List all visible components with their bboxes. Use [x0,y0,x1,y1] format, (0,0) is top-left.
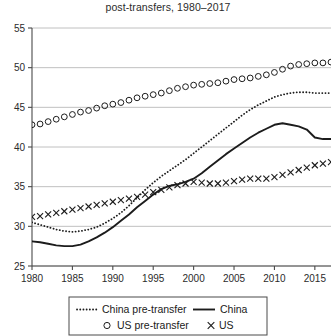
x-tick-labels: 19801985199019952000200520102015 [21,273,327,284]
x-tick-label: 1990 [102,273,125,284]
y-tick-label: 50 [14,62,26,73]
data-point-marker [239,76,245,82]
data-point-marker [158,90,164,96]
legend-label-china: China [220,303,248,315]
series-us-pre-transfer [29,59,334,127]
data-point-marker [118,100,124,106]
x-tick-marks [32,266,315,270]
data-point-marker [328,59,334,65]
data-point-marker [70,112,76,118]
data-point-marker [263,72,269,78]
data-point-marker [175,85,181,91]
series-us [29,159,334,220]
data-point-marker [142,93,148,99]
data-point-marker [78,109,84,115]
data-point-marker [304,61,310,67]
series-line [32,123,331,246]
data-point-marker [150,92,156,98]
data-point-marker [94,105,100,111]
data-point-marker [191,82,197,88]
data-point-marker [296,62,302,68]
series-line [32,92,331,232]
data-point-marker [247,75,253,81]
legend-label-china-pre-transfer: China pre-transfer [102,303,187,315]
x-tick-label: 2010 [263,273,286,284]
data-point-marker [199,81,205,87]
x-tick-label: 2000 [182,273,205,284]
chart-plot-area: 25303540455055 1980198519901995200020052… [0,0,336,336]
legend-label-us: US [219,319,234,331]
y-tick-label: 45 [14,102,26,113]
data-point-marker [231,77,237,83]
y-tick-label: 35 [14,181,26,192]
data-point-marker [166,88,172,94]
series-china [32,123,331,246]
y-tick-label: 55 [14,23,26,34]
data-point-marker [126,97,132,103]
x-tick-label: 2015 [304,273,327,284]
y-tick-label: 30 [14,221,26,232]
data-point-marker [223,78,229,84]
x-tick-label: 2005 [223,273,246,284]
data-point-marker [183,84,189,90]
x-tick-label: 1980 [21,273,44,284]
y-tick-labels: 25303540455055 [14,23,26,272]
chart-figure: post-transfers, 1980–2017 25303540455055… [0,0,336,336]
x-tick-label: 1985 [61,273,84,284]
data-point-marker [255,73,261,79]
data-point-marker [207,81,213,87]
data-point-marker [37,121,43,127]
data-point-marker [61,114,67,120]
chart-legend: China pre-transferChinaUS pre-transferUS [69,297,267,335]
x-tick-label: 1995 [142,273,165,284]
legend-label-us-pre-transfer: US pre-transfer [117,319,189,331]
gridlines-group [32,28,331,266]
data-point-marker [45,119,51,125]
series-china-pre-transfer [32,92,331,232]
y-tick-label: 40 [14,142,26,153]
data-point-marker [53,116,59,122]
y-tick-label: 25 [14,261,26,272]
data-point-marker [272,70,278,76]
data-point-marker [86,108,92,114]
data-point-marker [134,95,140,101]
data-point-marker [312,60,318,66]
series-layer [29,59,334,246]
data-point-marker [110,101,116,107]
data-point-marker [320,60,326,66]
data-point-marker [215,80,221,86]
y-tick-marks [28,28,32,266]
